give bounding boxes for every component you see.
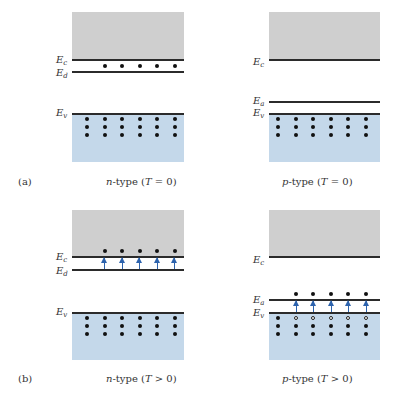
- ed-label: Ed: [56, 68, 68, 81]
- conduction-band: [269, 210, 380, 257]
- ea-line: [269, 101, 380, 103]
- ec-line: [269, 59, 380, 61]
- ed-line: [72, 71, 184, 73]
- valence-band: [72, 313, 184, 360]
- ev-line: [72, 113, 184, 115]
- row-label-b: (b): [18, 373, 32, 384]
- caption-n-type-t0: n-type (T = 0): [106, 176, 177, 187]
- valence-band: [269, 114, 380, 162]
- ev-label: Ev: [56, 307, 67, 320]
- hole: [329, 316, 333, 320]
- arrow-up-icon: [157, 258, 158, 269]
- hole: [311, 316, 315, 320]
- ev-label: Ev: [253, 308, 264, 321]
- ec-line: [72, 256, 184, 258]
- ed-label: Ed: [56, 266, 68, 279]
- row-label-a: (a): [18, 176, 32, 187]
- ed-line: [72, 269, 184, 271]
- caption-p-type-tgt0: p-type (T > 0): [282, 373, 353, 384]
- caption-n-type-tgt0: n-type (T > 0): [106, 373, 177, 384]
- ev-label: Ev: [56, 108, 67, 121]
- valence-band: [72, 114, 184, 162]
- arrow-up-icon: [313, 301, 314, 312]
- donor-electron: [173, 64, 177, 68]
- ev-label: Ev: [253, 108, 264, 121]
- conduction-band: [269, 12, 380, 60]
- ec-line: [269, 256, 380, 258]
- arrow-up-icon: [139, 258, 140, 269]
- arrow-up-icon: [331, 301, 332, 312]
- arrow-up-icon: [348, 301, 349, 312]
- arrow-up-icon: [174, 258, 175, 269]
- hole: [294, 316, 298, 320]
- ev-line: [72, 312, 184, 314]
- donor-electron: [138, 64, 142, 68]
- hole: [346, 316, 350, 320]
- hole: [364, 316, 368, 320]
- ec-label: Ec: [253, 255, 264, 268]
- donor-electron: [120, 64, 124, 68]
- arrow-up-icon: [366, 301, 367, 312]
- donor-electron: [155, 64, 159, 68]
- ev-line: [269, 312, 380, 314]
- arrow-up-icon: [104, 258, 105, 269]
- ec-label: Ec: [253, 57, 264, 70]
- arrow-up-icon: [296, 301, 297, 312]
- conduction-band: [72, 210, 184, 257]
- ec-label: Ec: [56, 252, 67, 265]
- conduction-band: [72, 12, 184, 60]
- caption-p-type-t0: p-type (T = 0): [282, 176, 353, 187]
- ec-line: [72, 59, 184, 61]
- valence-band: [269, 313, 380, 360]
- arrow-up-icon: [122, 258, 123, 269]
- donor-electron: [103, 64, 107, 68]
- ev-line: [269, 113, 380, 115]
